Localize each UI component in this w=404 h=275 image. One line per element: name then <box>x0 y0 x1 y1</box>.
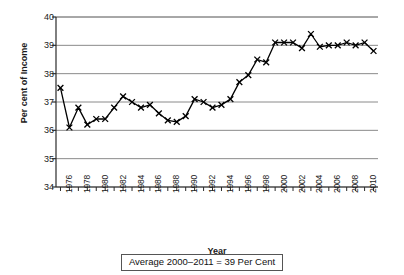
x-tick-label: 1990 <box>189 175 199 193</box>
chart-annotation-box: Average 2000–2011 = 39 Per Cent <box>0 251 404 271</box>
x-tick-label: 2004 <box>314 175 324 193</box>
x-tick-label: 1980 <box>100 175 110 193</box>
chart-annotation-text: Average 2000–2011 = 39 Per Cent <box>121 254 283 271</box>
x-tick-label: 2010 <box>368 175 378 193</box>
x-tick-label: 2002 <box>297 175 307 193</box>
x-tick-label: 2000 <box>279 175 289 193</box>
x-tick-label: 1976 <box>64 175 74 193</box>
x-tick-label: 1988 <box>171 175 181 193</box>
x-tick-label: 1978 <box>82 175 92 193</box>
x-tick-label: 1982 <box>118 175 128 193</box>
x-tick-label: 1992 <box>207 175 217 193</box>
x-tick-label: 1994 <box>225 175 235 193</box>
x-tick-label: 2008 <box>350 175 360 193</box>
x-tick-label: 1996 <box>243 175 253 193</box>
x-tick-label: 1998 <box>261 175 271 193</box>
x-axis-tick-labels: 1976197819801982198419861988199019921994… <box>0 0 404 275</box>
x-tick-label: 1986 <box>153 175 163 193</box>
chart-figure: Per cent of Income 34353637383940 197619… <box>0 0 404 275</box>
x-tick-label: 1984 <box>136 175 146 193</box>
x-tick-label: 2006 <box>332 175 342 193</box>
